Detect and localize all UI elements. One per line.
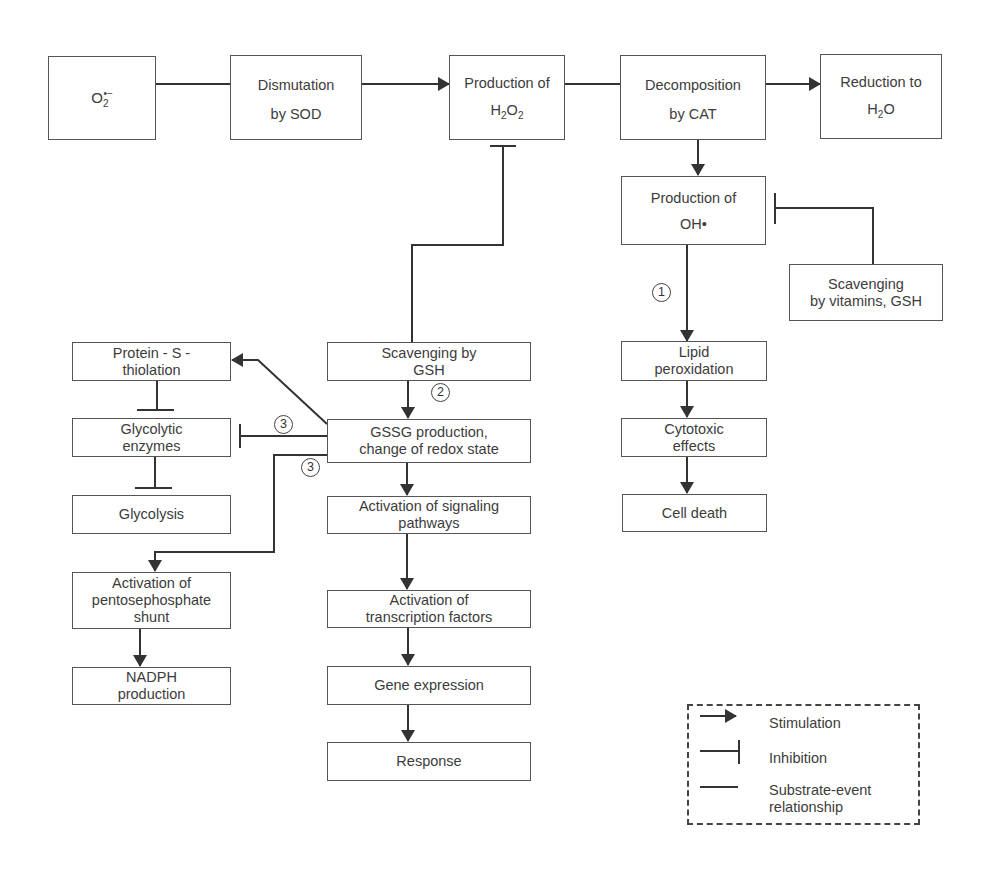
node-scavenging-vitamins: Scavenging by vitamins, GSH	[789, 264, 943, 321]
edge-vitamins-inhibit-hydroxyl	[775, 208, 873, 264]
badge-3-inhibition: 3	[274, 415, 293, 434]
node-glycolytic-enzymes: Glycolytic enzymes	[72, 418, 231, 457]
node-glycolysis: Glycolysis	[72, 495, 231, 534]
node-protein-s-thiolation: Protein - S - thiolation	[72, 342, 231, 381]
node-h2o2: Production of H2O2	[449, 55, 565, 140]
legend: Stimulation Inhibition Substrate-event r…	[687, 704, 920, 825]
badge-3-pentose: 3	[301, 458, 320, 477]
node-gssg: GSSG production, change of redox state	[327, 419, 531, 463]
node-nadph: NADPH production	[72, 667, 231, 705]
legend-stimulation-label: Stimulation	[769, 715, 841, 732]
legend-inhibition-label: Inhibition	[769, 750, 827, 767]
node-response: Response	[327, 742, 531, 781]
node-hydroxyl: Production of OH•	[621, 176, 766, 245]
node-superoxide: O2•−	[48, 56, 156, 140]
node-gene-expression: Gene expression	[327, 666, 531, 705]
node-dismutation: Dismutation by SOD	[230, 55, 362, 140]
node-pentose-shunt: Activation of pentosephosphate shunt	[72, 572, 231, 629]
badge-2: 2	[431, 383, 450, 402]
node-cell-death: Cell death	[622, 494, 767, 532]
legend-substrate-label: Substrate-event relationship	[769, 782, 871, 816]
badge-1: 1	[652, 283, 671, 302]
node-reduction: Reduction to H2O	[820, 54, 942, 139]
node-cytotoxic-effects: Cytotoxic effects	[621, 418, 767, 457]
node-lipid-peroxidation: Lipid peroxidation	[621, 341, 767, 381]
node-signaling: Activation of signaling pathways	[327, 496, 531, 534]
node-decomposition: Decomposition by CAT	[620, 55, 766, 140]
superoxide-symbol: O	[91, 89, 103, 106]
edge-gsh-inhibit-h2o2	[412, 146, 503, 342]
edge-gssg-proteins	[232, 360, 327, 424]
node-scavenging-gsh: Scavenging by GSH	[327, 342, 531, 381]
node-transcription: Activation of transcription factors	[327, 590, 531, 628]
